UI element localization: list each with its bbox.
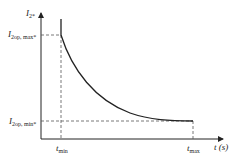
y-axis-label: I2*	[26, 9, 35, 19]
inverse-time-curve-diagram	[0, 0, 237, 160]
inverse-time-curve	[61, 19, 193, 121]
t-min-label: tmin	[56, 144, 68, 154]
y-level-min-label: I2op, min*	[9, 117, 36, 127]
x-axis-label: t (s)	[214, 143, 228, 152]
t-max-label: tmax	[187, 144, 200, 154]
y-level-max-label: I2op, max*	[8, 30, 36, 40]
